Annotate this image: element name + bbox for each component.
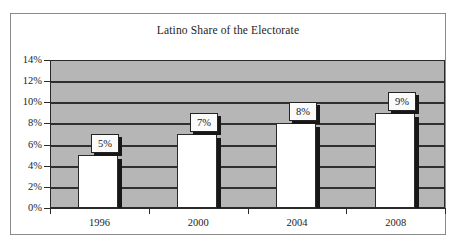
bar-2008[interactable] xyxy=(375,113,415,208)
bar-2000[interactable] xyxy=(177,134,217,208)
x-axis-tick-mark xyxy=(445,208,446,214)
x-axis-tick-label: 2000 xyxy=(188,216,209,229)
data-label-2000: 7% xyxy=(190,113,218,132)
bar-2004[interactable] xyxy=(276,123,316,208)
x-axis-tick-mark xyxy=(346,208,347,214)
data-label-2008: 9% xyxy=(388,92,416,111)
y-axis-tick-label: 2% xyxy=(8,182,42,192)
x-axis-tick-mark xyxy=(248,208,249,214)
x-axis-tick-label: 2004 xyxy=(286,216,307,229)
data-label-1996: 5% xyxy=(91,134,119,153)
y-axis-tick-label: 10% xyxy=(8,97,42,107)
y-axis-tick-label: 6% xyxy=(8,140,42,150)
bar-series: 5%7%8%9% xyxy=(50,60,445,208)
x-axis-tick-marks xyxy=(50,208,445,214)
x-axis-tick-labels: 1996200020042008 xyxy=(50,216,445,232)
y-axis-tick-label: 14% xyxy=(8,55,42,65)
bar-1996[interactable] xyxy=(78,155,118,208)
data-label-2004: 8% xyxy=(289,102,317,121)
y-axis-tick-labels: 0%2%4%6%8%10%12%14% xyxy=(8,60,42,208)
chart-title: Latino Share of the Electorate xyxy=(10,24,446,36)
y-axis-tick-label: 8% xyxy=(8,118,42,128)
x-axis-tick-label: 1996 xyxy=(89,216,110,229)
x-axis-tick-mark xyxy=(50,208,51,214)
y-axis-tick-label: 0% xyxy=(8,203,42,213)
y-axis-tick-label: 4% xyxy=(8,161,42,171)
y-axis-tick-label: 12% xyxy=(8,76,42,86)
chart-figure: Latino Share of the Electorate 0%2%4%6%8… xyxy=(0,0,458,247)
x-axis-tick-mark xyxy=(149,208,150,214)
x-axis-tick-label: 2008 xyxy=(385,216,406,229)
